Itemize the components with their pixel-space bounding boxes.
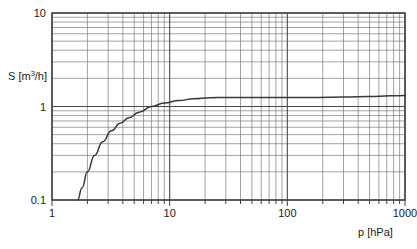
x-tick-labels: 1101001000 bbox=[49, 207, 417, 219]
x-tick-label: 100 bbox=[278, 207, 296, 219]
x-tick-label: 1000 bbox=[393, 207, 417, 219]
y-tick-label: 10 bbox=[34, 7, 46, 19]
y-tick-labels: 0.1110 bbox=[31, 7, 46, 206]
x-tick-label: 1 bbox=[49, 207, 55, 219]
y-tick-label: 0.1 bbox=[31, 194, 46, 206]
y-axis-label: S [m3/h] bbox=[8, 69, 47, 82]
x-axis-label: p [hPa] bbox=[358, 226, 393, 238]
x-tick-label: 10 bbox=[164, 207, 176, 219]
x-axis-ticks bbox=[52, 200, 405, 206]
pumping-speed-curve bbox=[78, 96, 405, 200]
y-tick-label: 1 bbox=[40, 101, 46, 113]
pump-speed-chart: 1101001000 0.1110 S [m3/h] p [hPa] bbox=[0, 0, 417, 249]
chart-canvas: 1101001000 0.1110 S [m3/h] p [hPa] bbox=[0, 0, 417, 249]
